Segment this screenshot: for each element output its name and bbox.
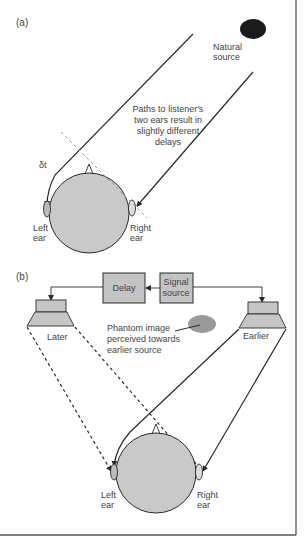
listener-head-b (116, 433, 196, 513)
left-ear-icon (44, 201, 51, 217)
phantom-caption-line1: Phantom image (107, 323, 170, 333)
left-speaker-icon (27, 300, 74, 326)
earlier-path-to-right-ear (203, 329, 286, 471)
left-ear-label-line1: Left (33, 223, 49, 233)
signal-source-label-line1: Signal (163, 277, 188, 287)
listener-head (49, 173, 129, 253)
natural-source-icon (240, 19, 266, 39)
signal-source-label-line2: source (162, 288, 189, 298)
right-ear-label-line1: Right (130, 223, 152, 233)
panel-a-label: (a) (16, 17, 28, 28)
paths-caption-line2: two ears result in (134, 115, 202, 125)
natural-source-label-line1: Natural (213, 42, 242, 52)
left-ear-label-b-line2: ear (101, 500, 114, 510)
delta-t-label: δt (39, 160, 47, 170)
delay-to-left-speaker-line (51, 287, 103, 300)
left-ear-label-line2: ear (33, 233, 46, 243)
panel-a: (a) Natural source Paths to listener's t… (16, 17, 266, 253)
delay-box-label: Delay (112, 283, 136, 293)
earlier-label: Earlier (243, 331, 269, 341)
phantom-caption-line3: earlier source (107, 345, 162, 355)
paths-caption-line1: Paths to listener's (133, 104, 204, 114)
right-ear-label-b-line2: ear (197, 500, 210, 510)
right-ear-label-b-line1: Right (197, 490, 219, 500)
panel-b: (b) Delay Signal source Later Earlier Ph… (16, 271, 286, 513)
paths-caption-line4: delays (155, 137, 182, 147)
later-path-to-left-ear (27, 327, 111, 471)
signal-to-right-speaker-line (193, 287, 262, 302)
left-ear-icon-b (111, 464, 118, 480)
left-ear-label-b-line1: Left (101, 490, 117, 500)
right-speaker-icon (239, 302, 286, 328)
paths-caption-line3: slightly different (137, 126, 200, 136)
phantom-image-icon (188, 315, 216, 333)
right-ear-icon (129, 200, 136, 216)
phantom-caption-line2: perceived towards (107, 334, 181, 344)
later-label: Later (47, 332, 68, 342)
right-ear-icon-b (196, 464, 203, 480)
panel-b-label: (b) (16, 271, 28, 282)
right-ear-label-line2: ear (130, 233, 143, 243)
precedence-effect-diagram: (a) Natural source Paths to listener's t… (0, 0, 305, 547)
natural-source-label-line2: source (213, 52, 240, 62)
